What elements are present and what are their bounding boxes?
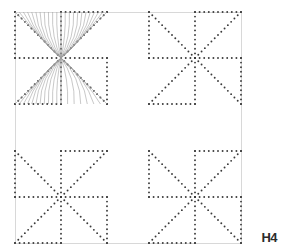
pattern-dot (203, 150, 205, 152)
pattern-dot (46, 196, 48, 198)
pattern-dot (46, 57, 48, 59)
pattern-dot (222, 57, 224, 59)
pattern-dot (14, 242, 16, 244)
pattern-dot (180, 103, 182, 105)
pattern-dot (230, 93, 232, 95)
pattern-dot (106, 57, 108, 59)
pattern-dot (184, 67, 186, 69)
pattern-dot (233, 157, 235, 159)
pattern-dot (227, 24, 229, 26)
pattern-dot (194, 214, 196, 216)
pattern-dot (194, 233, 196, 235)
pattern-dot (240, 62, 242, 64)
pattern-dot (155, 157, 157, 159)
pattern-dot (168, 83, 170, 85)
pattern-dot (151, 14, 153, 16)
pattern-dot (60, 150, 62, 152)
pattern-dot (194, 237, 196, 239)
pattern-dot (180, 57, 182, 59)
pattern-dot (157, 242, 159, 244)
pattern-dot (194, 242, 196, 244)
pattern-dot (210, 73, 212, 75)
pattern-dot (240, 94, 242, 96)
pattern-dot (194, 57, 196, 59)
pattern-dot (240, 233, 242, 235)
pattern-dot (194, 85, 196, 87)
pattern-dot (227, 229, 229, 231)
pattern-dot (178, 180, 180, 182)
pattern-dot (194, 168, 196, 170)
pattern-dot (162, 57, 164, 59)
pattern-dot (14, 150, 16, 152)
pattern-dot (17, 239, 19, 241)
pattern-dot (164, 166, 166, 168)
pattern-dot (171, 196, 173, 198)
pattern-dot (204, 67, 206, 69)
pattern-dot (24, 232, 26, 234)
pattern-dot (148, 168, 150, 170)
pattern-dot (203, 57, 205, 59)
pattern-dot (14, 187, 16, 189)
pattern-dot (185, 196, 187, 198)
envelope-curve (61, 58, 94, 104)
pattern-dot (34, 170, 36, 172)
pattern-dot (240, 11, 242, 13)
pattern-dot (194, 187, 196, 189)
pattern-dot (187, 50, 189, 52)
pattern-dot (197, 193, 199, 195)
pattern-dot (14, 52, 16, 54)
pattern-dot (14, 57, 16, 59)
pattern-dot (78, 196, 80, 198)
pattern-dot (24, 160, 26, 162)
pattern-dot (23, 242, 25, 244)
pattern-dot (60, 196, 62, 198)
pattern-dot (50, 186, 52, 188)
pattern-dot (14, 16, 16, 18)
pattern-dot (214, 37, 216, 39)
pattern-dot (86, 170, 88, 172)
pattern-dot (226, 57, 228, 59)
pattern-dot (231, 196, 233, 198)
pattern-dot (194, 80, 196, 82)
pattern-dot (176, 103, 178, 105)
pattern-dot (157, 57, 159, 59)
pattern-dot (153, 242, 155, 244)
pattern-dot (164, 87, 166, 89)
pattern-dot (148, 196, 150, 198)
pattern-dot (240, 242, 242, 244)
pattern-dot (69, 150, 71, 152)
pattern-dot (106, 80, 108, 82)
pattern-dot (189, 103, 191, 105)
pattern-dot (99, 157, 101, 159)
pattern-dot (240, 57, 242, 59)
pattern-dot (240, 66, 242, 68)
pattern-dot (235, 57, 237, 59)
pattern-dot (226, 11, 228, 13)
pattern-dot (230, 21, 232, 23)
pattern-dot (208, 196, 210, 198)
pattern-dot (240, 98, 242, 100)
pattern-dot (88, 150, 90, 152)
pattern-dot (67, 189, 69, 191)
pattern-dot (210, 212, 212, 214)
pattern-dot (231, 150, 233, 152)
pattern-dot (164, 27, 166, 29)
pattern-dot (83, 11, 85, 13)
pattern-dot (51, 242, 53, 244)
pattern-dot (194, 34, 196, 36)
pattern-dot (231, 57, 233, 59)
pattern-dot (42, 57, 44, 59)
pattern-dot (60, 173, 62, 175)
pattern-dot (148, 43, 150, 45)
pattern-dot (106, 94, 108, 96)
pattern-dot (180, 242, 182, 244)
pattern-dot (171, 103, 173, 105)
pattern-dot (57, 199, 59, 201)
pattern-dot (233, 18, 235, 20)
pattern-dot (106, 150, 108, 152)
pattern-dot (93, 163, 95, 165)
pattern-dot (231, 11, 233, 13)
pattern-dot (158, 21, 160, 23)
pattern-dot (220, 170, 222, 172)
pattern-dot (14, 48, 16, 50)
